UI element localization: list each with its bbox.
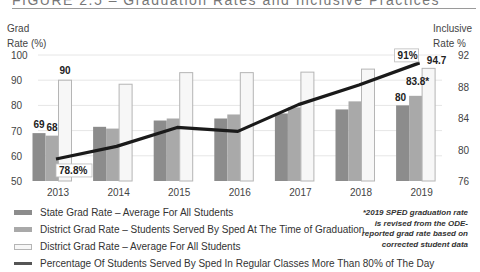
legend-line-swatch-icon <box>14 262 32 265</box>
bar-district-sped <box>227 114 240 181</box>
bar-state <box>93 127 106 181</box>
x-tick-label: 2013 <box>47 187 70 198</box>
bar-state <box>336 109 349 181</box>
data-label: 78.8% <box>59 165 87 176</box>
bar-district-sped <box>106 129 119 181</box>
x-tick-label: 2017 <box>289 187 312 198</box>
data-label: 83.8* <box>406 76 429 87</box>
combo-chart: 5060708090100768084889220132014201520162… <box>0 0 480 205</box>
legend-bar-swatch-icon <box>14 244 32 250</box>
legend-label: District Grad Rate – Students Served By … <box>40 224 364 235</box>
y-tick-label: 90 <box>11 75 23 86</box>
data-label: 90 <box>59 65 71 76</box>
y2-tick-label: 80 <box>458 145 470 156</box>
footnote: *2019 SPED graduation rate is revised fr… <box>358 208 468 250</box>
legend-label: District Grad Rate – Average For All Stu… <box>40 241 240 252</box>
bar-state <box>154 121 167 181</box>
y2-tick-label: 88 <box>458 82 470 93</box>
data-label: 91% <box>398 50 418 61</box>
bar-district-all <box>119 84 132 181</box>
x-tick-label: 2019 <box>410 187 433 198</box>
y2-tick-label: 76 <box>458 176 470 187</box>
bar-state <box>33 133 46 181</box>
y-tick-label: 100 <box>11 50 28 61</box>
y2-tick-label: 84 <box>458 113 470 124</box>
bar-district-all <box>301 72 314 181</box>
bar-district-sped <box>288 107 301 181</box>
bar-state <box>214 119 227 181</box>
x-tick-label: 2015 <box>168 187 191 198</box>
x-tick-label: 2016 <box>229 187 252 198</box>
y-tick-label: 60 <box>11 151 23 162</box>
data-label: 94.7 <box>427 55 447 66</box>
legend-bar-swatch-icon <box>14 210 32 215</box>
bar-district-all <box>362 69 375 181</box>
data-label: 80 <box>395 92 407 103</box>
x-tick-label: 2018 <box>350 187 373 198</box>
legend-label: Percentage Of Students Served By Sped In… <box>40 258 434 269</box>
x-tick-label: 2014 <box>107 187 130 198</box>
legend-bar-swatch-icon <box>14 227 32 232</box>
y2-tick-label: 92 <box>458 50 470 61</box>
data-label: 69 <box>33 119 45 130</box>
bar-state <box>396 105 409 181</box>
bar-district-sped <box>409 96 422 181</box>
data-label: 68 <box>46 122 58 133</box>
y-tick-label: 80 <box>11 100 23 111</box>
legend-label: State Grad Rate – Average For All Studen… <box>40 207 233 218</box>
bar-district-sped <box>349 101 362 181</box>
y-tick-label: 70 <box>11 126 23 137</box>
bar-state <box>275 113 288 181</box>
y-tick-label: 50 <box>11 176 23 187</box>
legend-item: Percentage Of Students Served By Sped In… <box>14 255 434 272</box>
